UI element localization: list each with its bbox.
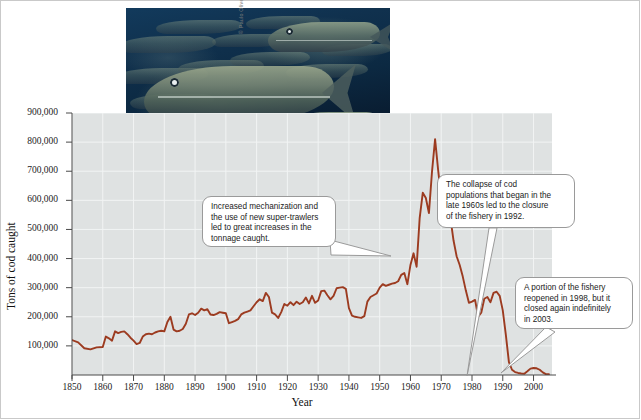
y-tick-label: 500,000 xyxy=(27,223,58,233)
photo-credit: © Paulo Oliveira / Alamy Stock Photo xyxy=(238,0,244,34)
y-tick-label: 400,000 xyxy=(27,253,58,263)
collapse-callout-line-4: of the fishery in 1992. xyxy=(446,212,567,223)
reopen-callout[interactable]: A portion of the fishery reopened in 199… xyxy=(515,277,633,329)
mechanization-callout-line-1: Increased mechanization and xyxy=(211,202,328,213)
reopen-callout-line-2: reopened in 1998, but it xyxy=(524,294,625,305)
x-tick-label: 2000 xyxy=(514,382,554,392)
mechanization-callout-line-4: tonnage caught. xyxy=(211,234,328,245)
y-tick-label: 100,000 xyxy=(27,340,58,350)
y-tick-label: 700,000 xyxy=(27,165,58,175)
y-axis-tick-labels: 900,000800,000700,000600,000500,000400,0… xyxy=(0,0,66,420)
figure-root: © Paulo Oliveira / Alamy Stock Photo 900… xyxy=(0,0,641,420)
x-axis-title: Year xyxy=(272,396,332,408)
y-tick-label: 900,000 xyxy=(27,107,58,117)
reopen-callout-line-1: A portion of the fishery xyxy=(524,283,625,294)
y-tick-label: 300,000 xyxy=(27,282,58,292)
reopen-callout-line-4: in 2003. xyxy=(524,315,625,326)
collapse-callout-line-2: populations that began in the xyxy=(446,191,567,202)
mechanization-callout-line-2: the use of new super-trawlers xyxy=(211,213,328,224)
collapse-callout[interactable]: The collapse of cod populations that beg… xyxy=(437,174,575,228)
mechanization-callout[interactable]: Increased mechanization and the use of n… xyxy=(202,196,336,247)
y-tick-label: 200,000 xyxy=(27,311,58,321)
mechanization-callout-line-3: led to great increases in the xyxy=(211,223,328,234)
reopen-callout-line-3: closed again indefinitely xyxy=(524,304,625,315)
y-axis-title: Tons of cod caught xyxy=(5,222,17,310)
y-tick-label: 800,000 xyxy=(27,136,58,146)
y-tick-label: 600,000 xyxy=(27,194,58,204)
collapse-callout-line-3: late 1960s led to the closure xyxy=(446,201,567,212)
collapse-callout-line-1: The collapse of cod xyxy=(446,180,567,191)
